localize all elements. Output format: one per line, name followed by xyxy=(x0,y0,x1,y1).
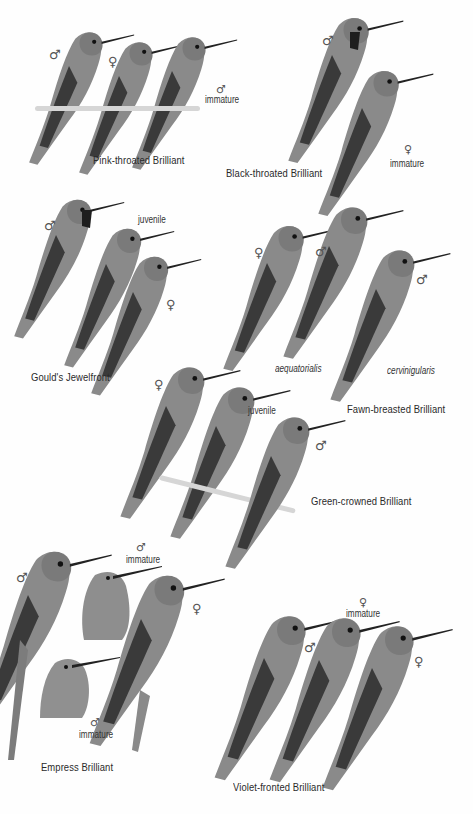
age-note: juvenile xyxy=(138,215,166,225)
age-note: immature xyxy=(346,609,380,619)
sex-symbol-male: ♂ xyxy=(315,245,327,258)
sex-symbol-male: ♂ xyxy=(315,439,327,452)
sex-symbol-male: ♂ xyxy=(322,34,334,47)
sex-symbol-male: ♂ xyxy=(16,571,28,584)
species-name-green-crowned-brilliant: Green-crowned Brilliant xyxy=(311,496,411,508)
sex-symbol-female: ♀ xyxy=(166,298,176,311)
age-note: immature xyxy=(126,555,160,565)
species-name-violet-fronted-brilliant: Violet-fronted Brilliant xyxy=(233,782,324,794)
species-name-fawn-breasted-brilliant: Fawn-breasted Brilliant xyxy=(347,404,445,416)
sex-symbol-female: ♀ xyxy=(108,55,118,68)
subspecies-name: cervinigularis xyxy=(387,366,435,376)
species-name-goulds-jewelfront: Gould's Jewelfront xyxy=(31,372,110,384)
sex-symbol-female: ♀ xyxy=(154,378,164,391)
sex-symbol-male: ♂ xyxy=(90,717,100,728)
age-note: immature xyxy=(390,159,424,169)
sex-symbol-male: ♂ xyxy=(44,219,56,232)
sex-symbol-female: ♀ xyxy=(359,597,367,608)
subspecies-name: aequatorialis xyxy=(275,364,322,374)
sex-symbol-female: ♀ xyxy=(254,246,264,259)
sex-symbol-male: ♂ xyxy=(49,48,61,61)
species-name-empress-brilliant: Empress Brilliant xyxy=(41,762,113,774)
sex-symbol-female: ♀ xyxy=(192,602,202,615)
age-note: immature xyxy=(79,730,113,740)
age-note: juvenile xyxy=(248,406,276,416)
sex-symbol-female: ♀ xyxy=(404,144,412,155)
sex-symbol-female: ♀ xyxy=(414,655,424,668)
species-name-pink-throated-brilliant: Pink-throated Brilliant xyxy=(93,155,185,167)
species-name-black-throated-brilliant: Black-throated Brilliant xyxy=(226,168,322,180)
sex-symbol-male: ♂ xyxy=(304,641,316,654)
sex-symbol-male: ♂ xyxy=(136,542,146,553)
sex-symbol-male: ♂ xyxy=(416,273,428,286)
age-note: immature xyxy=(205,95,239,105)
illustration-plate: ♂ ♀ ♂ immature Pink-throated Brilliant ♂… xyxy=(0,0,473,814)
